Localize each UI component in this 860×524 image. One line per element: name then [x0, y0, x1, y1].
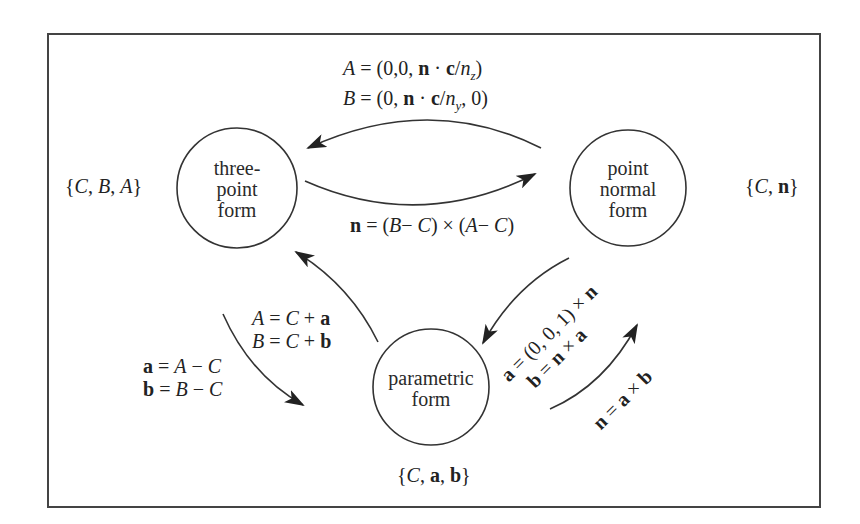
label-line: parametric — [366, 368, 496, 389]
label-line: three- — [187, 158, 287, 179]
node-point-normal-label: point normal form — [578, 158, 678, 221]
edge-label-A-B-from-normal: A = (0,0, n · c/nz) B = (0, n · c/ny, 0) — [343, 57, 488, 117]
edge-label-A-B-from-parametric: A = C + a B = C + b — [252, 307, 331, 353]
label-line: form — [187, 200, 287, 221]
parametric-set: {C, a, b} — [397, 464, 471, 487]
label-line: form — [578, 200, 678, 221]
point-normal-set: {C, n} — [745, 175, 799, 198]
label-line: form — [366, 389, 496, 410]
three-point-set: {C, B, A} — [65, 175, 142, 198]
node-three-point-label: three- point form — [187, 158, 287, 221]
label-line: point — [578, 158, 678, 179]
label-line: point — [187, 179, 287, 200]
edge-three-point-to-point-normal — [305, 174, 535, 205]
plane-forms-diagram: three- point form point normal form para… — [0, 0, 860, 524]
node-parametric-label: parametric form — [366, 368, 496, 410]
edge-label-n-cross: n = (B− C) × (A− C) — [350, 214, 514, 237]
edge-label-a-b-from-points: a = A − C b = B − C — [143, 355, 222, 401]
label-line: normal — [578, 179, 678, 200]
edge-point-normal-to-three-point — [308, 120, 541, 148]
